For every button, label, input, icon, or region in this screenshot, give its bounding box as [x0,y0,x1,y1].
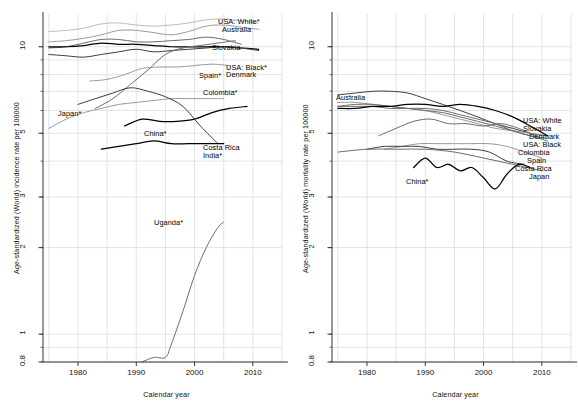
y-tick-label: 5 [307,119,316,145]
series-label-slovakia: Slovakia [212,44,240,52]
series-label-australia: Australia [336,94,365,102]
plot-area-mortality [289,0,578,407]
x-tick-label: 1980 [58,368,98,377]
x-tick-label: 2010 [522,368,562,377]
series-label-australia: Australia [222,26,251,34]
x-tick-label: 1990 [116,368,156,377]
y-tick-label: 5 [18,119,27,145]
series-label-india: India* [203,152,222,160]
chart-panel-mortality: Age-standardized (World) mortality rate … [289,0,578,407]
series-line-uganda [142,222,224,362]
series-label-uganda: Uganda* [154,219,183,227]
chart-panel-incidence: Age-standardized (World) incidence rate … [0,0,289,407]
series-line-australia [338,91,548,136]
y-tick-label: 3 [18,183,27,209]
figure-root: Age-standardized (World) incidence rate … [0,0,578,407]
y-tick-label: 10 [18,32,27,58]
series-label-china: China* [144,130,167,138]
y-tick-label: 2 [18,233,27,259]
y-tick-label: 10 [307,32,316,58]
x-tick-label: 1980 [347,368,387,377]
series-label-denmark: Denmark [226,71,256,79]
x-tick-label: 1990 [405,368,445,377]
y-tick-label: 0.8 [18,348,27,374]
series-label-colombia: Colombia* [203,89,238,97]
y-tick-label: 2 [307,233,316,259]
y-tick-label: 1 [307,320,316,346]
series-label-spain: Spain* [199,72,221,80]
x-axis-title-incidence: Calendar year [43,390,290,399]
y-tick-label: 1 [18,320,27,346]
series-label-japan: Japan [529,173,549,181]
y-tick-label: 0.8 [307,348,316,374]
series-line-denmark [338,106,548,141]
x-axis-title-mortality: Calendar year [332,390,578,399]
series-label-china: China* [406,178,429,186]
plot-area-incidence [0,0,289,407]
x-tick-label: 2000 [464,368,504,377]
y-tick-label: 3 [307,183,316,209]
series-label-japan: Japan* [58,110,81,118]
x-tick-label: 2010 [233,368,273,377]
x-tick-label: 2000 [175,368,215,377]
